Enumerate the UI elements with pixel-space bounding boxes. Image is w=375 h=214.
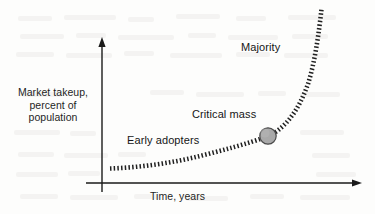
x-axis-arrowhead-icon — [352, 179, 362, 186]
critical-mass-marker — [260, 128, 276, 144]
x-axis-line-group — [86, 179, 362, 186]
annotation-early-adopters: Early adopters — [127, 134, 199, 147]
y-axis-arrowhead-icon — [98, 37, 105, 47]
critical-mass-highlight — [260, 128, 269, 137]
y-axis-line-group — [98, 37, 105, 192]
x-axis-label: Time, years — [150, 190, 205, 203]
adoption-curve-figure: Market takeup, percent of population Tim… — [0, 0, 375, 214]
annotation-critical-mass: Critical mass — [192, 108, 256, 121]
y-axis-label: Market takeup, percent of population — [9, 86, 97, 124]
annotation-majority: Majority — [241, 41, 280, 54]
